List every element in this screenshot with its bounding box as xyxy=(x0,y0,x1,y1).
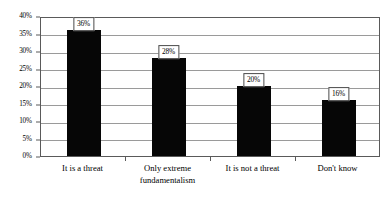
y-axis-tick-label: 40% xyxy=(19,13,32,20)
bar xyxy=(67,30,101,156)
y-axis-tick-label: 20% xyxy=(19,83,32,90)
x-axis-tick-mark xyxy=(125,157,126,161)
x-axis-category-label-line: Only extreme xyxy=(140,163,195,175)
x-axis-tick-mark xyxy=(210,157,211,161)
plot-area: 36%28%20%16% xyxy=(40,17,380,157)
x-axis-tick-marks xyxy=(40,157,380,162)
x-axis-category-label: It is not a threat xyxy=(226,163,280,175)
x-axis-category-label-line: Don't know xyxy=(318,163,358,175)
y-axis-tick-label: 15% xyxy=(19,101,32,108)
y-axis-tick-label: 5% xyxy=(23,136,32,143)
x-axis-category-label: Don't know xyxy=(318,163,358,175)
bar-value-label: 16% xyxy=(328,87,349,101)
x-axis-category-label: It is a threat xyxy=(62,163,103,175)
y-axis: 0%5%10%15%20%25%30%35%40% xyxy=(0,17,36,157)
bar xyxy=(237,86,271,156)
x-axis-category-label-line: It is a threat xyxy=(62,163,103,175)
y-axis-tick-label: 25% xyxy=(19,66,32,73)
bar-value-label: 20% xyxy=(243,73,264,87)
bar-chart: 0%5%10%15%20%25%30%35%40% 36%28%20%16% I… xyxy=(0,0,389,204)
y-axis-tick-label: 30% xyxy=(19,48,32,55)
x-axis-category-label-line: It is not a threat xyxy=(226,163,280,175)
y-axis-tick-label: 10% xyxy=(19,118,32,125)
x-axis-tick-mark xyxy=(295,157,296,161)
bar xyxy=(152,58,186,156)
x-axis-category-label: Only extremefundamentalism xyxy=(140,163,195,186)
x-axis-category-label-line: fundamentalism xyxy=(140,175,195,187)
bar-value-label: 28% xyxy=(158,45,179,59)
bar-value-label: 36% xyxy=(73,17,94,31)
y-axis-tick-label: 0% xyxy=(23,153,32,160)
bar xyxy=(322,100,356,156)
y-axis-tick-label: 35% xyxy=(19,31,32,38)
x-axis-category-labels: It is a threatOnly extremefundamentalism… xyxy=(40,163,380,199)
